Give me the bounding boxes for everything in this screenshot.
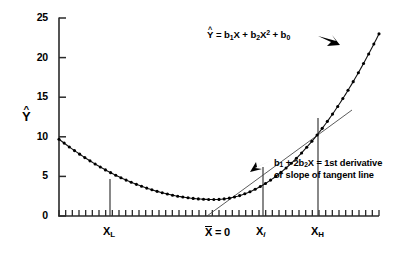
xi-sub: i bbox=[263, 230, 265, 239]
curve-point bbox=[73, 149, 76, 152]
chart-canvas bbox=[0, 0, 412, 259]
curve-point bbox=[316, 133, 319, 136]
curve-point bbox=[238, 194, 241, 197]
curve-point bbox=[377, 32, 380, 35]
curve-point bbox=[305, 146, 308, 149]
curve-point bbox=[233, 195, 236, 198]
equation-part-2: X + b bbox=[233, 29, 256, 40]
curve-point bbox=[352, 80, 355, 83]
curve-point bbox=[78, 153, 81, 156]
curve-point bbox=[259, 185, 262, 188]
curve-point bbox=[321, 127, 324, 130]
curve-point bbox=[186, 196, 189, 199]
y-axis-hat-accent: ^ bbox=[23, 104, 29, 114]
curve-point bbox=[264, 182, 267, 185]
y-tick-label-25: 25 bbox=[26, 12, 48, 23]
y-tick-label-0: 0 bbox=[26, 210, 48, 221]
curve-point bbox=[156, 190, 159, 193]
curve-point bbox=[223, 197, 226, 200]
y-tick-label-5: 5 bbox=[26, 170, 48, 181]
figure-container: 25 20 15 10 5 0 ^ Y XL X = 0 Xi XH ^ Y =… bbox=[0, 0, 412, 259]
curve-point bbox=[57, 138, 60, 141]
y-tick-label-20: 20 bbox=[26, 52, 48, 63]
y-tick-marks bbox=[59, 18, 66, 216]
curve-point bbox=[109, 171, 112, 174]
derivative-tail: X = 1st derivative bbox=[308, 158, 382, 168]
curve-point bbox=[372, 43, 375, 46]
y-axis-title: ^ Y bbox=[22, 110, 31, 123]
curve-point bbox=[63, 142, 66, 145]
curve-point bbox=[357, 71, 360, 74]
curve-point bbox=[300, 151, 303, 154]
y-tick-label-10: 10 bbox=[26, 131, 48, 142]
curve-point bbox=[119, 176, 122, 179]
derivative-mid: + 2b bbox=[283, 158, 304, 168]
curve-point bbox=[104, 168, 107, 171]
equation-part-1: = b bbox=[213, 29, 229, 40]
curve-point bbox=[331, 113, 334, 116]
curve-point bbox=[197, 197, 200, 200]
curve-point bbox=[310, 140, 313, 143]
curve-point bbox=[125, 179, 128, 182]
equation-sub-0: 0 bbox=[286, 34, 290, 41]
xbar-eq: = 0 bbox=[212, 226, 230, 238]
curve-point bbox=[248, 190, 251, 193]
curve-point bbox=[367, 52, 370, 55]
x-tick-label-xi: Xi bbox=[256, 226, 265, 239]
equation-annotation: ^ Y = b1X + b2X2 + b0 bbox=[207, 30, 290, 42]
curve-point bbox=[217, 198, 220, 201]
curve-point bbox=[171, 194, 174, 197]
curve-point bbox=[135, 183, 138, 186]
curve-point bbox=[114, 174, 117, 177]
curve-point bbox=[228, 197, 231, 200]
xh-sub: H bbox=[318, 230, 324, 239]
curve-point bbox=[68, 145, 71, 148]
x-tick-marks bbox=[59, 210, 379, 216]
curve-point bbox=[341, 97, 344, 100]
derivative-annotation: b1 + 2b2X = 1st derivative or slope of t… bbox=[274, 158, 382, 181]
curve-point bbox=[145, 187, 148, 190]
curve-point bbox=[202, 198, 205, 201]
derivative-line-1: b1 + 2b2X = 1st derivative bbox=[274, 158, 382, 170]
curve-point bbox=[346, 89, 349, 92]
curve-point bbox=[362, 62, 365, 65]
y-tick-label-15: 15 bbox=[26, 91, 48, 102]
curve-point bbox=[269, 179, 272, 182]
curve-point bbox=[88, 159, 91, 162]
curve-point bbox=[243, 192, 246, 195]
curve-point bbox=[140, 185, 143, 188]
curve-point bbox=[192, 197, 195, 200]
equation-part-4: + b bbox=[270, 29, 286, 40]
x-tick-label-xl: XL bbox=[103, 226, 115, 239]
curve-point bbox=[326, 120, 329, 123]
curve-point bbox=[212, 198, 215, 201]
derivative-line-2: or slope of tangent line bbox=[274, 170, 382, 182]
x-tick-label-xh: XH bbox=[311, 226, 324, 239]
equation-hat-accent: ^ bbox=[208, 26, 212, 33]
curve-point bbox=[99, 165, 102, 168]
curve-point bbox=[130, 181, 133, 184]
derivative-arrow bbox=[250, 160, 272, 172]
xl-sub: L bbox=[110, 230, 115, 239]
curve-point bbox=[176, 195, 179, 198]
curve-point bbox=[83, 156, 86, 159]
curve-point bbox=[161, 191, 164, 194]
x-tick-label-xbar: X = 0 bbox=[205, 226, 230, 238]
curve-point bbox=[150, 188, 153, 191]
curve-point bbox=[181, 196, 184, 199]
curve-point bbox=[254, 188, 257, 191]
curve-point bbox=[207, 198, 210, 201]
curve-point bbox=[336, 105, 339, 108]
equation-arrow bbox=[318, 35, 340, 46]
curve-point bbox=[166, 192, 169, 195]
curve-point bbox=[94, 162, 97, 165]
